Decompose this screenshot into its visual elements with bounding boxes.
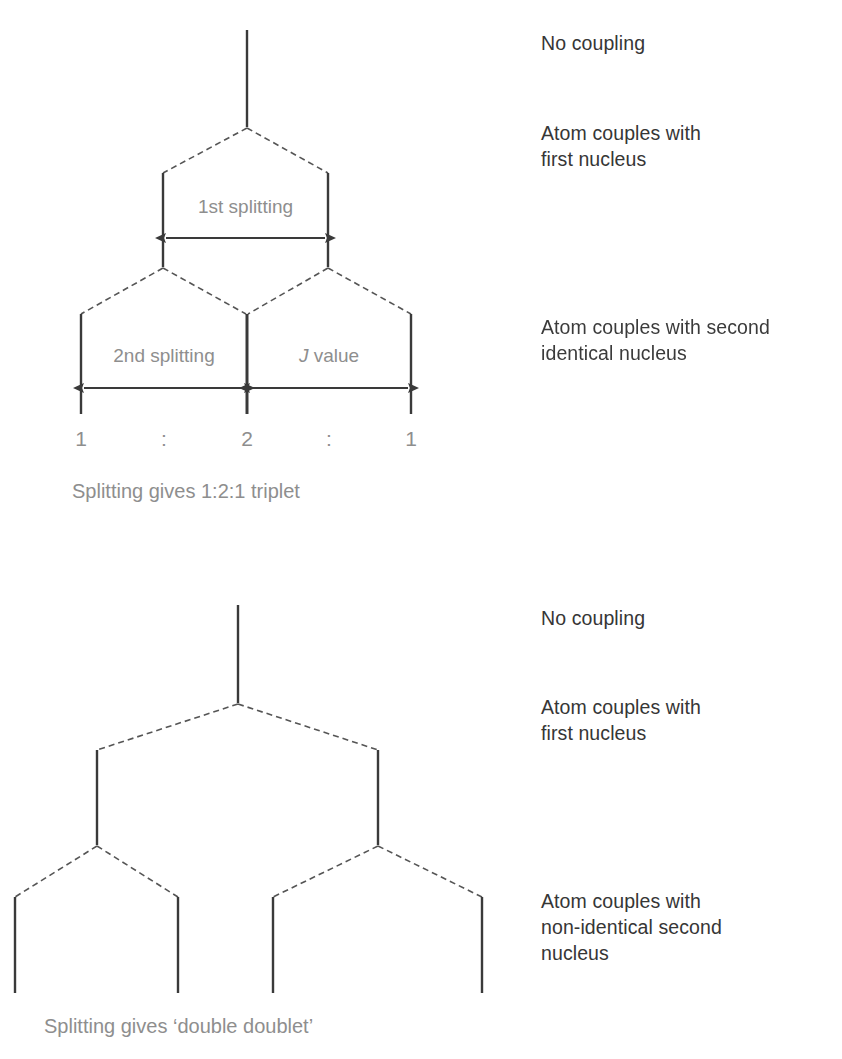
top-diagram-caption: Splitting gives 1:2:1 triplet (72, 479, 300, 503)
bottom-connector-0-left (97, 704, 238, 750)
bottom-connector-1b-right (378, 846, 482, 897)
top-note-second-identical-nucleus: Atom couples with second identical nucle… (541, 314, 770, 366)
top-connector-1a-left (81, 268, 163, 314)
top-note-no-coupling: No coupling (541, 30, 645, 56)
ratio-value-3: 1 (396, 428, 426, 450)
j-value-label: J value (247, 345, 411, 367)
first-splitting-label: 1st splitting (163, 196, 328, 218)
top-note-first-nucleus: Atom couples with first nucleus (541, 120, 701, 172)
bottom-note-first-nucleus: Atom couples with first nucleus (541, 694, 701, 746)
bottom-connector-1a-left (15, 846, 97, 897)
top-connector-1a-right (163, 268, 246, 314)
bottom-connector-1b-left (273, 846, 378, 897)
bottom-note-non-identical-second-nucleus: Atom couples with non-identical second n… (541, 888, 722, 966)
top-connector-1b-left (248, 268, 328, 314)
figure-canvas: 1st splitting 2nd splitting J value 1 : … (0, 0, 842, 1059)
ratio-colon-1: : (149, 428, 179, 450)
top-connector-0-right (247, 128, 328, 173)
second-splitting-label: 2nd splitting (81, 345, 247, 367)
ratio-colon-2: : (314, 428, 344, 450)
bottom-diagram-caption: Splitting gives ‘double doublet’ (44, 1014, 313, 1038)
bottom-connector-1a-right (97, 846, 178, 897)
bottom-diagram-group (15, 605, 482, 993)
top-connector-0-left (163, 128, 247, 173)
top-connector-1b-right (328, 268, 411, 314)
ratio-value-2: 2 (232, 428, 262, 450)
bottom-connector-0-right (238, 704, 378, 750)
bottom-note-no-coupling: No coupling (541, 605, 645, 631)
j-value-word: value (308, 345, 359, 366)
ratio-value-1: 1 (66, 428, 96, 450)
j-symbol: J (299, 345, 309, 366)
